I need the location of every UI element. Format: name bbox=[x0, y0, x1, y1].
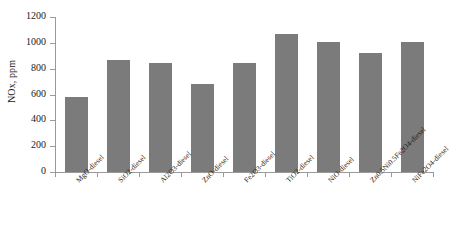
y-tick-label: 800 bbox=[31, 62, 46, 73]
x-tick-mark bbox=[223, 172, 224, 177]
bar bbox=[107, 60, 130, 172]
x-tick-mark bbox=[391, 172, 392, 177]
plot-area bbox=[55, 17, 433, 172]
y-tick-label: 1200 bbox=[26, 10, 46, 21]
y-tick-label: 1000 bbox=[26, 36, 46, 47]
x-tick-mark bbox=[181, 172, 182, 177]
x-tick-mark bbox=[265, 172, 266, 177]
x-tick-mark bbox=[55, 172, 56, 177]
x-tick-mark bbox=[139, 172, 140, 177]
bar bbox=[359, 53, 382, 172]
x-tick-mark bbox=[349, 172, 350, 177]
y-tick-label: 0 bbox=[41, 165, 46, 176]
x-tick-mark bbox=[307, 172, 308, 177]
y-tick-label: 400 bbox=[31, 113, 46, 124]
x-tick-mark bbox=[433, 172, 434, 177]
y-tick-label: 200 bbox=[31, 139, 46, 150]
bar bbox=[275, 34, 298, 172]
bar bbox=[233, 63, 256, 172]
bar bbox=[149, 63, 172, 172]
bar bbox=[65, 97, 88, 172]
y-axis-title: NOx, ppm bbox=[6, 42, 17, 122]
bar bbox=[317, 42, 340, 172]
y-tick-label: 600 bbox=[31, 88, 46, 99]
x-tick-mark bbox=[97, 172, 98, 177]
bar bbox=[191, 84, 214, 172]
